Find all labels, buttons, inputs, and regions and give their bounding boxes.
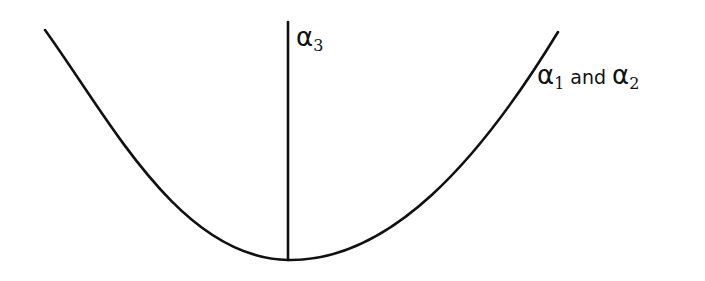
alpha-symbol: α	[296, 22, 313, 52]
alpha-3-label: α3	[296, 24, 323, 54]
alpha-symbol-1: α	[537, 60, 554, 90]
conjunction-text: and	[570, 66, 606, 88]
u-shaped-curve	[45, 30, 558, 260]
alpha-1-and-alpha-2-label: α1andα2	[537, 62, 639, 92]
subscript-1: 1	[554, 74, 564, 93]
subscript-2: 2	[629, 74, 639, 93]
alpha-symbol-2: α	[612, 60, 629, 90]
subscript-3: 3	[313, 36, 323, 55]
diagram-canvas	[0, 0, 705, 281]
